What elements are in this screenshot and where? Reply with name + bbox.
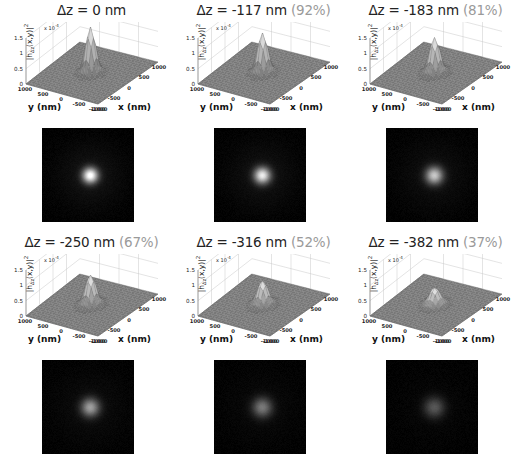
x-tick-label: -1000 [91,338,108,344]
x-axis-label: x (nm) [462,334,495,344]
y-tick-label: -500 [417,333,430,339]
x-tick-label: 1000 [496,296,511,302]
strehl-percent-label: (52%) [291,234,331,250]
z-axis-exponent: x 10-4 [388,23,403,31]
x-tick-label: 500 [311,306,322,312]
x-tick-label: 0 [299,317,303,323]
panel-dz-316: Δz = -316 nm (52%)00.511.510005000-500-1… [178,232,349,463]
surface-plot: 00.511.510005000-500-1000-1000-500050010… [178,254,349,348]
y-axis-label: y (nm) [28,102,61,112]
surface-plot: 00.511.510005000-500-1000-1000-500050010… [350,254,521,348]
z-axis-exponent: x 10-4 [44,23,59,31]
strehl-percent-label: (81%) [463,2,503,18]
x-tick-label: 0 [127,85,131,91]
y-tick-label: 1000 [18,86,33,92]
defocus-label: Δz = 0 nm [57,2,126,18]
x-axis-label: x (nm) [118,102,151,112]
y-axis-label: y (nm) [372,102,405,112]
z-axis-label: |hΔz(x,y)|2 [367,245,379,303]
x-axis-label: x (nm) [290,102,323,112]
panel-row-1: Δz = -250 nm (67%)00.511.510005000-500-1… [0,232,527,463]
y-tick-label: 500 [210,91,221,97]
x-tick-label: -1000 [263,106,280,112]
x-tick-label: -1000 [435,106,452,112]
strehl-percent-label: (67%) [119,234,159,250]
y-tick-label: 500 [382,323,393,329]
x-tick-label: 1000 [324,64,339,70]
x-tick-label: -500 [452,327,465,333]
panel-dz-117: Δz = -117 nm (92%)00.511.510005000-500-1… [178,0,349,231]
y-tick-label: 1000 [362,318,377,324]
x-tick-label: -500 [108,327,121,333]
y-axis-label: y (nm) [372,334,405,344]
x-axis-label: x (nm) [118,334,151,344]
y-tick-label: 500 [210,323,221,329]
x-tick-label: 500 [311,74,322,80]
z-axis-exponent: x 10-4 [216,255,231,263]
psf-intensity-bitmap [214,360,306,454]
panel-dz-382: Δz = -382 nm (37%)00.511.510005000-500-1… [350,232,521,463]
psf-intensity-bitmap [42,128,134,222]
x-tick-label: 500 [139,306,150,312]
x-tick-label: 1000 [324,296,339,302]
x-tick-label: 1000 [152,64,167,70]
z-axis-label: |hΔz(x,y)|2 [195,245,207,303]
panel-dz-0: Δz = 0 nm00.511.510005000-500-1000-1000-… [6,0,177,231]
psf-image [42,128,134,222]
x-tick-label: -500 [108,95,121,101]
x-tick-label: 1000 [496,64,511,70]
y-axis-label: y (nm) [28,334,61,344]
y-tick-label: -500 [417,101,430,107]
strehl-percent-label: (92%) [291,2,331,18]
x-tick-label: 500 [483,306,494,312]
psf-intensity-bitmap [386,360,478,454]
z-axis-label: |hΔz(x,y)|2 [195,13,207,71]
y-tick-label: -500 [245,101,258,107]
defocus-label: Δz = -316 nm [196,234,286,250]
surface-plot: 00.511.510005000-500-1000-1000-500050010… [178,22,349,116]
x-tick-label: -1000 [435,338,452,344]
y-tick-label: 0 [59,328,63,334]
surface-plot: 00.511.510005000-500-1000-1000-500050010… [350,22,521,116]
y-tick-label: 0 [231,328,235,334]
y-tick-label: 1000 [190,86,205,92]
y-tick-label: 1000 [190,318,205,324]
y-tick-label: 0 [403,328,407,334]
x-tick-label: -1000 [91,106,108,112]
x-tick-label: 0 [299,85,303,91]
y-tick-label: -500 [245,333,258,339]
x-tick-label: -500 [280,327,293,333]
y-tick-label: 1000 [362,86,377,92]
z-axis-label: |hΔz(x,y)|2 [23,245,35,303]
x-tick-label: 0 [127,317,131,323]
defocus-label: Δz = -382 nm [368,234,458,250]
panel-dz-183: Δz = -183 nm (81%)00.511.510005000-500-1… [350,0,521,231]
psf-image [42,360,134,454]
psf-intensity-bitmap [386,128,478,222]
panel-dz-250: Δz = -250 nm (67%)00.511.510005000-500-1… [6,232,177,463]
psf-intensity-bitmap [42,360,134,454]
panel-row-0: Δz = 0 nm00.511.510005000-500-1000-1000-… [0,0,527,231]
y-tick-label: 0 [231,96,235,102]
x-tick-label: 0 [471,317,475,323]
z-axis-label: |hΔz(x,y)|2 [23,13,35,71]
psf-image [386,128,478,222]
y-tick-label: 0 [403,96,407,102]
y-tick-label: 500 [382,91,393,97]
psf-image [214,128,306,222]
defocus-label: Δz = -117 nm [196,2,286,18]
y-axis-label: y (nm) [200,102,233,112]
y-tick-label: -500 [73,101,86,107]
y-tick-label: 500 [38,91,49,97]
y-tick-label: 0 [59,96,63,102]
y-axis-label: y (nm) [200,334,233,344]
psf-defocus-figure: Δz = 0 nm00.511.510005000-500-1000-1000-… [0,0,527,463]
y-tick-label: -500 [73,333,86,339]
surface-plot: 00.511.510005000-500-1000-1000-500050010… [6,254,177,348]
psf-image [386,360,478,454]
x-tick-label: 500 [139,74,150,80]
x-tick-label: 500 [483,74,494,80]
x-tick-label: -500 [280,95,293,101]
psf-intensity-bitmap [214,128,306,222]
x-tick-label: -500 [452,95,465,101]
